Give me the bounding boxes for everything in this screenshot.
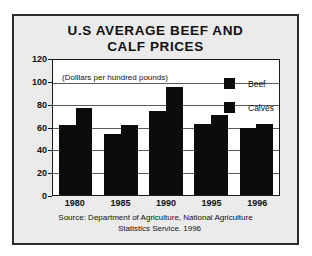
y-axis-tick-mark: [48, 82, 52, 83]
chart-title-line-2: CALF PRICES: [14, 39, 297, 55]
bar-calves-1990: [166, 87, 183, 195]
bar-calves-1995: [211, 115, 228, 195]
bar-beef-1995: [194, 124, 211, 195]
chart-title: U.S AVERAGE BEEF AND CALF PRICES: [14, 23, 297, 55]
legend-label-calves: Calves: [248, 103, 274, 113]
legend-entry-calves: Calves: [224, 102, 274, 113]
legend-entry-beef: Beef: [224, 78, 266, 89]
y-axis-tick-mark: [48, 150, 52, 151]
legend-swatch-calves: [224, 102, 235, 113]
bar-beef-1990: [149, 111, 166, 195]
y-axis-tick-mark: [48, 105, 52, 106]
y-axis-tick-label: 20: [37, 168, 47, 178]
y-axis-tick-mark: [48, 196, 52, 197]
bar-beef-1996: [240, 128, 257, 196]
bar-beef-1980: [59, 125, 76, 195]
y-axis-tick-label: 120: [32, 54, 47, 64]
y-axis-tick-mark: [48, 128, 52, 129]
x-axis-tick-label: 1996: [234, 198, 280, 208]
x-axis-tick-label: 1985: [98, 198, 144, 208]
source-note: Source: Department of Agriculture, Natio…: [14, 212, 297, 234]
plot-wrapper: 020406080100120 (Dolllars per hundred po…: [52, 59, 280, 196]
x-axis-tick-label: 1980: [52, 198, 98, 208]
y-axis-tick-label: 80: [37, 100, 47, 110]
legend-swatch-beef: [224, 78, 235, 89]
source-note-line-1: Source: Department of Agriculture, Natio…: [14, 212, 297, 223]
bar-calves-1996: [256, 124, 273, 195]
legend-label-beef: Beef: [248, 79, 266, 89]
bar-calves-1980: [76, 108, 93, 195]
y-axis-tick-label: 60: [37, 123, 47, 133]
units-annotation: (Dolllars per hundred pounds): [62, 73, 168, 82]
chart-figure: U.S AVERAGE BEEF AND CALF PRICES 0204060…: [12, 14, 299, 245]
bar-calves-1985: [121, 125, 138, 195]
y-axis-tick-mark: [48, 59, 52, 60]
bar-beef-1985: [104, 134, 121, 195]
y-axis-tick-mark: [48, 173, 52, 174]
y-axis-tick-label: 100: [32, 77, 47, 87]
x-axis-tick-label: 1990: [143, 198, 189, 208]
y-axis-tick-label: 0: [42, 191, 47, 201]
chart-title-line-1: U.S AVERAGE BEEF AND: [14, 23, 297, 39]
x-axis-tick-label: 1995: [189, 198, 235, 208]
y-axis-tick-label: 40: [37, 145, 47, 155]
source-note-line-2: Statistics Service. 1996: [14, 223, 297, 234]
x-axis-tick-labels: 19801985199019951996: [52, 198, 280, 208]
